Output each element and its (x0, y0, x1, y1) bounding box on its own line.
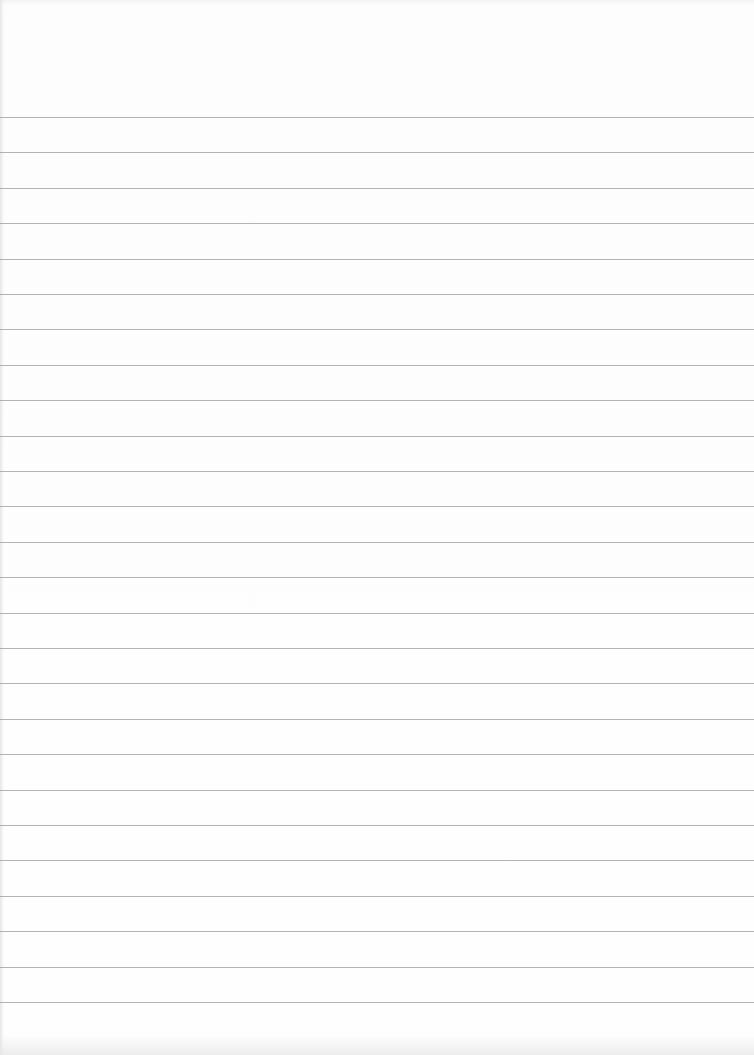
ruled-line (0, 648, 754, 649)
ruled-line (0, 400, 754, 401)
ruled-line (0, 329, 754, 330)
ruled-line (0, 719, 754, 720)
ruled-line (0, 577, 754, 578)
ruled-line (0, 117, 754, 118)
ruled-line (0, 542, 754, 543)
ruled-line (0, 506, 754, 507)
ruled-paper-sheet (0, 0, 754, 1055)
ruled-line (0, 152, 754, 153)
ruled-line (0, 931, 754, 932)
ruled-line (0, 825, 754, 826)
ruled-line (0, 223, 754, 224)
ruled-line (0, 471, 754, 472)
ruled-line (0, 188, 754, 189)
ruled-line (0, 294, 754, 295)
ruled-line (0, 790, 754, 791)
ruled-line (0, 613, 754, 614)
ruled-line (0, 365, 754, 366)
ruled-line (0, 259, 754, 260)
ruled-line (0, 967, 754, 968)
ruled-line (0, 860, 754, 861)
ruled-line (0, 436, 754, 437)
ruled-line (0, 896, 754, 897)
ruled-line (0, 754, 754, 755)
ruled-line (0, 683, 754, 684)
ruled-line (0, 1002, 754, 1003)
